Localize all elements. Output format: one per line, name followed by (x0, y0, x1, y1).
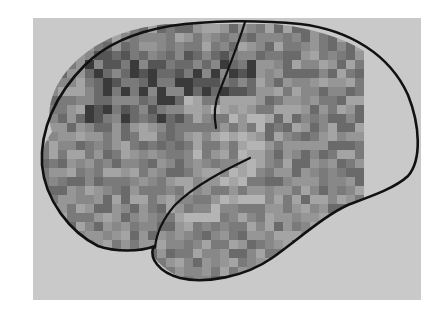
central-sulcus (215, 22, 245, 128)
brain-outline (0, 0, 445, 324)
sylvian-fissure (155, 158, 250, 248)
cortex-outline (42, 21, 418, 280)
